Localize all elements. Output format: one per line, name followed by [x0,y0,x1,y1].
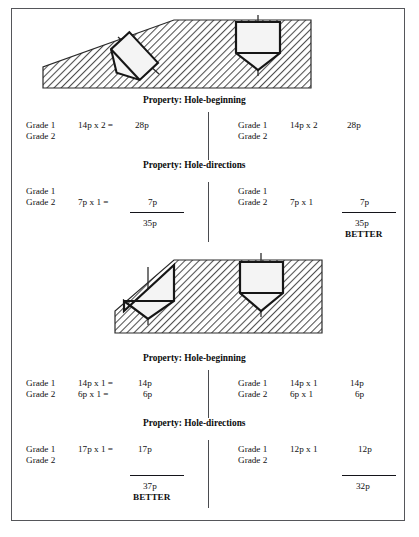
upper-left-directions-grade2: Grade 2 [26,198,55,207]
lower-property-hole-beginning: Property: Hole-beginning [140,354,249,363]
lower-divider-top [208,370,209,418]
lower-right-beginning-value1: 14p [350,379,364,388]
lower-right-sum-rule [342,475,396,476]
upper-left-sum-rule [130,212,184,213]
lower-left-directions-value1: 17p [138,445,152,454]
lower-right-beginning-grade1: Grade 1 [238,379,267,388]
lower-right-directions-value1: 12p [358,445,372,454]
upper-right-beginning-grade1: Grade 1 [238,121,267,130]
upper-left-directions-expr2: 7p x 1 = [78,198,108,207]
lower-left-directions-grade1: Grade 1 [26,445,55,454]
upper-property-hole-beginning: Property: Hole-beginning [140,96,249,105]
upper-right-total: 35p [355,219,369,228]
upper-left-directions-value2: 7p [148,198,157,207]
lower-left-beginning-expr1: 14p x 1 = [78,379,113,388]
upper-left-beginning-grade1: Grade 1 [26,121,55,130]
upper-left-total: 35p [143,219,157,228]
lower-left-beginning-value1: 14p [138,379,152,388]
lower-left-directions-expr1: 17p x 1 = [78,445,113,454]
upper-left-beginning-grade2: Grade 2 [26,132,55,141]
upper-right-directions-expr2: 7p x 1 [290,198,313,207]
upper-right-beginning-expr1: 14p x 2 [290,121,318,130]
lower-right-directions-grade2: Grade 2 [238,456,267,465]
lower-left-beginning-expr2: 6p x 1 = [78,390,108,399]
upper-divider-bottom [208,182,209,242]
figure-page: Property: Hole-beginning Grade 1 Grade 2… [0,0,419,537]
lower-divider-bottom [208,440,209,508]
lower-right-beginning-expr1: 14p x 1 [290,379,318,388]
lower-left-directions-grade2: Grade 2 [26,456,55,465]
lower-left-better-label: BETTER [133,493,170,502]
upper-right-directions-value2: 7p [360,198,369,207]
lower-right-directions-grade1: Grade 1 [238,445,267,454]
upper-right-better-label: BETTER [345,230,382,239]
upper-property-hole-directions: Property: Hole-directions [140,161,249,170]
upper-right-directions-grade2: Grade 2 [238,198,267,207]
upper-right-beginning-grade2: Grade 2 [238,132,267,141]
lower-right-beginning-expr2: 6p x 1 [290,390,313,399]
lower-right-total: 32p [356,482,370,491]
lower-left-beginning-grade2: Grade 2 [26,390,55,399]
figure-frame: Property: Hole-beginning Grade 1 Grade 2… [11,8,405,521]
lower-right-beginning-value2: 6p [355,390,364,399]
lower-property-hole-directions: Property: Hole-directions [140,419,249,428]
lower-left-sum-rule [130,475,184,476]
upper-divider-top [208,112,209,160]
lower-right-beginning-grade2: Grade 2 [238,390,267,399]
upper-workpiece-drawing [12,9,406,109]
upper-left-beginning-expr1: 14p x 2 = [78,121,113,130]
upper-right-beginning-value1: 28p [347,121,361,130]
upper-left-directions-grade1: Grade 1 [26,187,55,196]
upper-left-beginning-value1: 28p [135,121,149,130]
lower-left-beginning-value2: 6p [143,390,152,399]
upper-right-directions-grade1: Grade 1 [238,187,267,196]
lower-left-beginning-grade1: Grade 1 [26,379,55,388]
lower-workpiece-drawing [12,249,406,349]
lower-left-total: 37p [143,482,157,491]
upper-right-sum-rule [342,212,396,213]
lower-right-directions-expr1: 12p x 1 [290,445,318,454]
